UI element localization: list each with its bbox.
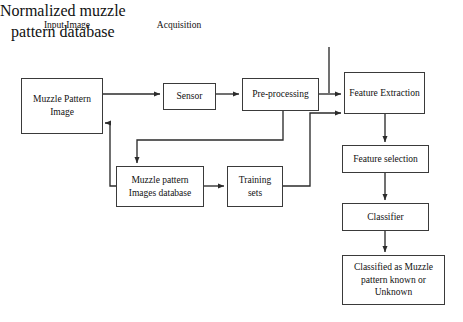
node-sensor-label: Sensor — [164, 90, 215, 103]
node-sensor: Sensor — [163, 83, 216, 110]
node-images-database-label: Muzzle pattern Images database — [117, 174, 203, 199]
node-feature-extraction-label: Feature Extraction — [345, 87, 424, 100]
node-muzzle-pattern-images-database: Muzzle pattern Images database — [116, 166, 204, 207]
label-acquisition: Acquisition — [142, 19, 216, 32]
node-pre-processing-label: Pre-processing — [243, 88, 318, 101]
node-muzzle-pattern-image-label: Muzzle Pattern Image — [22, 93, 102, 118]
label-normalized-muzzle-pattern-database: Normalized muzzle pattern database — [0, 0, 126, 43]
node-feature-extraction: Feature Extraction — [344, 72, 425, 114]
node-feature-selection-label: Feature selection — [343, 153, 428, 166]
node-muzzle-pattern-image: Muzzle Pattern Image — [21, 78, 103, 134]
edge-images-database-feedback — [105, 123, 116, 186]
diagram-canvas: Input Image Acquisition Normalized muzzl… — [0, 0, 463, 322]
node-classified-result: Classified as Muzzle pattern known or Un… — [342, 255, 445, 305]
node-classified-result-label: Classified as Muzzle pattern known or Un… — [343, 261, 444, 299]
node-classifier: Classifier — [342, 203, 429, 231]
node-pre-processing: Pre-processing — [242, 78, 319, 111]
node-classifier-label: Classifier — [343, 211, 428, 224]
edge-pre-processing-to-images-database — [137, 111, 283, 163]
node-training-sets: Training sets — [227, 166, 283, 207]
edge-training-sets-to-feature-extraction — [283, 113, 341, 186]
node-feature-selection: Feature selection — [342, 145, 429, 173]
node-training-sets-label: Training sets — [228, 174, 282, 199]
